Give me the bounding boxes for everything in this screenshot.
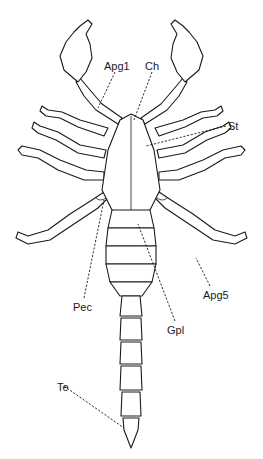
- left-legs: [16, 106, 108, 244]
- mesosoma: [106, 210, 156, 296]
- label-ch: Ch: [145, 61, 159, 72]
- scorpion-diagram: Apg1 Ch St Pec Gpl Apg5 Te: [0, 0, 263, 459]
- metasoma: [120, 296, 142, 448]
- label-gpl: Gpl: [167, 325, 184, 336]
- telson: [123, 418, 139, 448]
- scorpion-drawing: [0, 0, 263, 459]
- label-apg1: Apg1: [104, 61, 130, 72]
- label-te: Te: [57, 382, 69, 393]
- label-pec: Pec: [73, 302, 92, 313]
- label-st: St: [228, 121, 238, 132]
- label-apg5: Apg5: [203, 290, 229, 301]
- pedipalps: [60, 20, 203, 124]
